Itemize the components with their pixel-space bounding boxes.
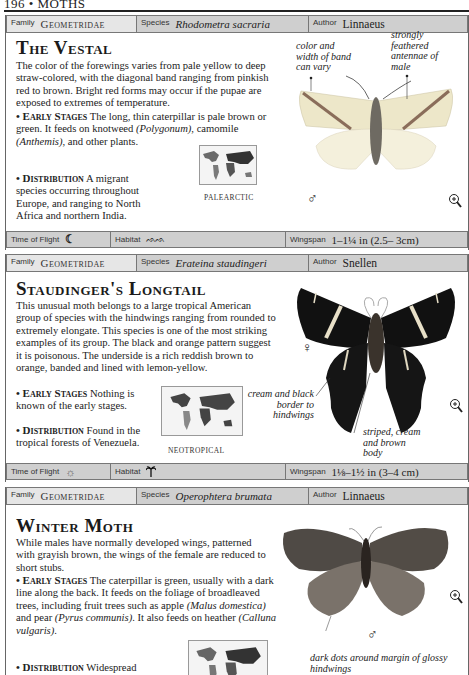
world-map-icon xyxy=(162,387,242,435)
map-label: PALEARCTIC xyxy=(204,193,254,202)
entry-title: Winter Moth xyxy=(16,515,133,537)
world-map-icon xyxy=(189,641,267,675)
early-stages-heading: • Early Stages xyxy=(16,110,87,122)
species-entry-staudinger: Family Geometridae Species Erateina stau… xyxy=(5,254,469,482)
species-label: Species xyxy=(141,18,169,27)
family-label: Family xyxy=(11,257,35,266)
species-label: Species xyxy=(141,490,169,499)
species-label: Species xyxy=(141,257,169,266)
early-stages-text-d: . xyxy=(54,625,57,636)
species-value: Operophtera brumata xyxy=(175,490,271,502)
magnify-zoom-icon[interactable] xyxy=(449,589,463,605)
early-stages-section: • Early Stages Nothing is known of the e… xyxy=(16,387,138,413)
species-value: Erateina staudingeri xyxy=(175,257,266,269)
sun-icon: ☼ xyxy=(65,466,75,478)
wingspan-label: Wingspan xyxy=(290,467,326,476)
early-stages-heading: • Early Stages xyxy=(16,574,87,586)
family-cell: Family Geometridae xyxy=(7,255,137,271)
page-header-rule xyxy=(4,10,469,12)
author-label: Author xyxy=(313,490,337,499)
habitat-label: Habitat xyxy=(115,235,140,244)
magnify-zoom-icon[interactable] xyxy=(449,398,463,414)
distribution-section: • Distribution Found in the tropical for… xyxy=(16,424,141,450)
moth-illustration-winter-moth xyxy=(274,521,464,631)
annotation-border: cream and black border to hindwings xyxy=(244,389,314,421)
time-of-flight-cell: Time of Flight ☼ xyxy=(7,464,111,479)
annotation-band: color and width of band can vary xyxy=(296,41,356,73)
time-of-flight-label: Time of Flight xyxy=(11,467,59,476)
entry-body: Winter Moth While males have normally de… xyxy=(6,505,468,675)
species-entry-vestal: Family Geometridae Species Rhodometra sa… xyxy=(5,15,469,250)
moth-illustration-vestal xyxy=(291,71,461,211)
distribution-section: • Distribution A migrant species occurri… xyxy=(16,172,151,223)
world-map-icon xyxy=(200,146,256,184)
author-value: Linnaeus xyxy=(343,18,385,30)
habitat-cell: Habitat ᨒᨒ xyxy=(111,232,286,247)
distribution-section: • Distribution Widespread and common thr… xyxy=(16,661,151,675)
species-entry-winter-moth: Family Geometridae Species Operophtera b… xyxy=(5,487,469,675)
distribution-heading: • Distribution xyxy=(16,172,84,184)
species-cell: Species Erateina staudingeri xyxy=(137,255,309,271)
world-map-palearctic xyxy=(199,145,257,185)
annotation-antennae: strongly feathered antennae of male xyxy=(391,30,441,72)
intro-text: This unusual moth belongs to a large tro… xyxy=(16,300,278,374)
entry-footer-bar: Time of Flight ☾ Habitat ᨒᨒ Wingspan 1–1… xyxy=(6,231,468,248)
entry-intro: The color of the forewings varies from p… xyxy=(16,60,271,110)
entry-intro: This unusual moth belongs to a large tro… xyxy=(16,300,278,374)
entry-intro: While males have normally developed wing… xyxy=(16,537,266,574)
intro-text: While males have normally developed wing… xyxy=(16,537,266,574)
author-label: Author xyxy=(313,18,337,27)
grassland-icon: ᨒᨒ xyxy=(146,235,164,245)
early-stages-text-c: . It also feeds on heather xyxy=(132,612,238,623)
family-label: Family xyxy=(11,18,35,27)
plant-name: (Malus domestica) xyxy=(187,600,266,611)
time-of-flight-label: Time of Flight xyxy=(11,235,59,244)
plant-name: (Polygonum) xyxy=(136,123,191,134)
early-stages-text-c: , and other plants. xyxy=(62,136,138,147)
early-stages-text-b: and pear xyxy=(16,612,55,623)
early-stages-section: • Early Stages The long, thin caterpilla… xyxy=(16,110,271,148)
time-of-flight-cell: Time of Flight ☾ xyxy=(7,232,111,247)
world-map-neotropical xyxy=(161,386,243,436)
wingspan-label: Wingspan xyxy=(290,235,326,244)
author-cell: Author Snellen xyxy=(309,255,467,271)
plant-name: (Anthemis) xyxy=(16,136,62,147)
author-value: Linnaeus xyxy=(343,490,385,502)
species-cell: Species Operophtera brumata xyxy=(137,488,309,504)
sex-symbol-female: ♀ xyxy=(302,340,313,356)
early-stages-section: • Early Stages The caterpillar is green,… xyxy=(16,574,278,637)
plant-name: (Pyrus communis) xyxy=(55,612,132,623)
world-map xyxy=(188,640,268,675)
magnify-zoom-icon[interactable] xyxy=(448,193,462,209)
moon-icon: ☾ xyxy=(65,232,76,247)
early-stages-heading: • Early Stages xyxy=(16,387,87,399)
family-value: Geometridae xyxy=(41,257,105,269)
early-stages-text-b: , camomile xyxy=(191,123,238,134)
species-cell: Species Rhodometra sacraria xyxy=(137,16,309,32)
author-cell: Author Linnaeus xyxy=(309,16,467,32)
wingspan-cell: Wingspan 1–1¼ in (2.5– 3cm) xyxy=(286,232,467,247)
map-label: NEOTROPICAL xyxy=(168,446,224,455)
palm-tree-icon xyxy=(146,466,156,477)
annotation-hindwings: dark dots around margin of glossy hindwi… xyxy=(310,653,460,674)
family-cell: Family Geometridae xyxy=(7,488,137,504)
distribution-heading: • Distribution xyxy=(16,424,84,436)
wingspan-cell: Wingspan 1⅛–1½ in (3–4 cm) xyxy=(286,464,467,479)
author-cell: Author Linnaeus xyxy=(309,488,467,504)
entry-body: The Vestal The color of the forewings va… xyxy=(6,33,468,231)
sex-symbol-male: ♂ xyxy=(307,191,318,207)
intro-text: The color of the forewings varies from p… xyxy=(16,60,271,110)
entry-title: Staudinger's Longtail xyxy=(16,278,206,300)
moth-illustration-longtail xyxy=(286,278,466,448)
wingspan-value: 1⅛–1½ in (3–4 cm) xyxy=(332,466,419,478)
family-label: Family xyxy=(11,490,35,499)
entry-body: Staudinger's Longtail This unusual moth … xyxy=(6,272,468,463)
annotation-body: striped, cream and brown body xyxy=(363,427,423,459)
entry-footer-bar: Time of Flight ☼ Habitat Wingspan 1⅛–1½ … xyxy=(6,463,468,480)
distribution-heading: • Distribution xyxy=(16,661,84,673)
habitat-label: Habitat xyxy=(115,467,140,476)
family-value: Geometridae xyxy=(41,490,105,502)
species-value: Rhodometra sacraria xyxy=(175,18,269,30)
entry-title: The Vestal xyxy=(16,37,112,59)
author-value: Snellen xyxy=(343,257,378,269)
